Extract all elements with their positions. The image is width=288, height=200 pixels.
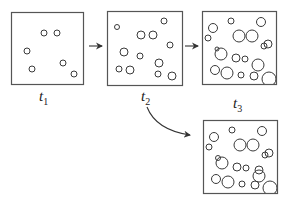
bubble-circle: [264, 40, 272, 48]
bubble-circle: [215, 48, 227, 60]
bubble-circle: [212, 175, 221, 184]
bubble-circle: [54, 30, 60, 36]
bubble-circle: [205, 35, 211, 41]
bubble-circle: [209, 24, 218, 33]
bubble-circle: [239, 181, 245, 187]
bubble-circle: [120, 48, 128, 56]
bubble-circle: [232, 54, 240, 62]
frame-border: [108, 12, 183, 86]
frame-t2: [108, 12, 183, 86]
bubble-circle: [137, 53, 143, 59]
frame-t3-alt: [204, 121, 278, 196]
bubble-circle: [161, 18, 167, 24]
frame-t1: [12, 13, 84, 85]
bubble-circle: [257, 18, 266, 27]
time-subscript: 1: [43, 96, 48, 107]
bubble-circle: [246, 30, 258, 42]
arrow-t2-to-alt: [147, 107, 190, 135]
bubble-circle: [247, 139, 259, 151]
bubble-circle: [29, 66, 35, 72]
bubble-circle: [155, 59, 163, 67]
bubble-circle: [228, 18, 234, 24]
bubble-circle: [211, 66, 220, 75]
bubble-circle: [115, 25, 120, 30]
bubble-circle: [251, 181, 259, 189]
bubbles: [206, 127, 277, 196]
bubbles: [115, 18, 177, 80]
bubble-circle: [250, 72, 258, 80]
bubble-circle: [41, 30, 47, 36]
time-subscript: 3: [237, 103, 242, 114]
bubble-circle: [243, 165, 249, 171]
bubble-circle: [242, 56, 248, 62]
bubble-circle: [167, 42, 173, 48]
bubble-circle: [233, 163, 241, 171]
bubble-circle: [222, 176, 234, 188]
bubble-circle: [206, 144, 212, 150]
bubble-circle: [71, 71, 77, 77]
bubble-circle: [216, 157, 228, 169]
bubble-circle: [258, 127, 267, 136]
bubble-circle: [234, 139, 246, 151]
bubble-circle: [229, 127, 235, 133]
bubble-circle: [265, 149, 273, 157]
bubble-circle: [126, 66, 134, 74]
bubble-circle: [233, 30, 245, 42]
time-label-t3: t3: [233, 96, 242, 114]
bubble-circle: [60, 60, 66, 66]
bubble-circle: [24, 48, 30, 54]
frame-t3: [203, 12, 277, 87]
frame-border: [12, 13, 84, 85]
time-subscript: 2: [145, 96, 150, 107]
bubbles: [24, 30, 77, 77]
time-label-t1: t1: [39, 89, 48, 107]
time-label-t2: t2: [141, 89, 150, 107]
bubble-circle: [210, 133, 219, 142]
bubble-circle: [149, 31, 157, 39]
bubble-circle: [137, 31, 145, 39]
bubble-circle: [263, 181, 277, 195]
bubbles: [205, 18, 276, 87]
bubble-circle: [168, 72, 176, 80]
bubble-circle: [253, 170, 265, 182]
bubble-circle: [221, 67, 233, 79]
bubble-circle: [252, 59, 264, 71]
bubble-circle: [238, 72, 244, 78]
bubble-circle: [155, 71, 161, 77]
bubble-circle: [116, 66, 122, 72]
